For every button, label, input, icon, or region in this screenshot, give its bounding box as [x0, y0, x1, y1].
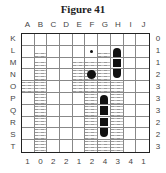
- grid-cell-HT[interactable]: [111, 140, 124, 152]
- grid-cell-CS[interactable]: [47, 128, 60, 140]
- grid-cell-EP[interactable]: [73, 93, 86, 105]
- grid-cell-JT[interactable]: [136, 140, 149, 152]
- grid-cell-EM[interactable]: [73, 58, 86, 70]
- grid-cell-AS[interactable]: [22, 128, 35, 140]
- grid-cell-FT[interactable]: [85, 140, 98, 152]
- grid-cell-JP[interactable]: [136, 93, 149, 105]
- grid-cell-DS[interactable]: [60, 128, 73, 140]
- grid-cell-JL[interactable]: [136, 46, 149, 58]
- grid-cell-HS[interactable]: [111, 128, 124, 140]
- grid-cell-DR[interactable]: [60, 117, 73, 129]
- grid-cell-CR[interactable]: [47, 117, 60, 129]
- grid-cell-DN[interactable]: [60, 69, 73, 81]
- grid-cell-GL[interactable]: [98, 46, 111, 58]
- grid-cell-IQ[interactable]: [124, 105, 137, 117]
- grid-cell-JR[interactable]: [136, 117, 149, 129]
- grid-cell-GM[interactable]: [98, 58, 111, 70]
- grid-cell-DL[interactable]: [60, 46, 73, 58]
- grid-cell-GQ[interactable]: [98, 105, 111, 117]
- grid-cell-EK[interactable]: [73, 34, 86, 46]
- grid-cell-IT[interactable]: [124, 140, 137, 152]
- grid-cell-EQ[interactable]: [73, 105, 86, 117]
- grid-cell-EN[interactable]: [73, 69, 86, 81]
- grid-cell-IK[interactable]: [124, 34, 137, 46]
- grid-cell-HO[interactable]: [111, 81, 124, 93]
- grid-cell-AT[interactable]: [22, 140, 35, 152]
- grid-cell-GK[interactable]: [98, 34, 111, 46]
- grid-cell-HP[interactable]: [111, 93, 124, 105]
- grid-cell-BK[interactable]: [35, 34, 48, 46]
- grid-cell-AP[interactable]: [22, 93, 35, 105]
- grid-cell-BP[interactable]: [35, 93, 48, 105]
- grid-cell-BO[interactable]: [35, 81, 48, 93]
- grid-cell-AO[interactable]: [22, 81, 35, 93]
- grid-cell-FP[interactable]: [85, 93, 98, 105]
- grid-cell-AL[interactable]: [22, 46, 35, 58]
- grid-cell-IM[interactable]: [124, 58, 137, 70]
- grid-cell-CQ[interactable]: [47, 105, 60, 117]
- grid-cell-IS[interactable]: [124, 128, 137, 140]
- grid-cell-BS[interactable]: [35, 128, 48, 140]
- grid-cell-EL[interactable]: [73, 46, 86, 58]
- grid-cell-GS[interactable]: [98, 128, 111, 140]
- grid-cell-CO[interactable]: [47, 81, 60, 93]
- grid-cell-GN[interactable]: [98, 69, 111, 81]
- grid-cell-ET[interactable]: [73, 140, 86, 152]
- grid-cell-CK[interactable]: [47, 34, 60, 46]
- grid-cell-JQ[interactable]: [136, 105, 149, 117]
- grid-cell-HL[interactable]: [111, 46, 124, 58]
- grid-cell-FL[interactable]: [85, 46, 98, 58]
- grid-cell-BR[interactable]: [35, 117, 48, 129]
- grid-cell-FR[interactable]: [85, 117, 98, 129]
- grid-cell-GO[interactable]: [98, 81, 111, 93]
- grid-cell-CT[interactable]: [47, 140, 60, 152]
- grid-cell-CL[interactable]: [47, 46, 60, 58]
- grid-cell-GP[interactable]: [98, 93, 111, 105]
- grid-cell-IP[interactable]: [124, 93, 137, 105]
- grid-cell-HR[interactable]: [111, 117, 124, 129]
- grid-cell-GR[interactable]: [98, 117, 111, 129]
- grid-cell-AR[interactable]: [22, 117, 35, 129]
- grid-cell-IO[interactable]: [124, 81, 137, 93]
- grid-cell-CN[interactable]: [47, 69, 60, 81]
- grid-cell-DQ[interactable]: [60, 105, 73, 117]
- grid-cell-JM[interactable]: [136, 58, 149, 70]
- grid-cell-ER[interactable]: [73, 117, 86, 129]
- grid-cell-DO[interactable]: [60, 81, 73, 93]
- grid-cell-FO[interactable]: [85, 81, 98, 93]
- grid-cell-AM[interactable]: [22, 58, 35, 70]
- grid-cell-DP[interactable]: [60, 93, 73, 105]
- grid-cell-JN[interactable]: [136, 69, 149, 81]
- grid-cell-HK[interactable]: [111, 34, 124, 46]
- grid-cell-CM[interactable]: [47, 58, 60, 70]
- grid-cell-BT[interactable]: [35, 140, 48, 152]
- grid-cell-IN[interactable]: [124, 69, 137, 81]
- grid-cell-DM[interactable]: [60, 58, 73, 70]
- grid-cell-AQ[interactable]: [22, 105, 35, 117]
- grid-cell-EO[interactable]: [73, 81, 86, 93]
- grid-cell-FK[interactable]: [85, 34, 98, 46]
- grid-cell-FN[interactable]: [85, 69, 98, 81]
- grid-cell-ES[interactable]: [73, 128, 86, 140]
- grid-cell-GT[interactable]: [98, 140, 111, 152]
- grid-cell-FM[interactable]: [85, 58, 98, 70]
- grid-cell-DT[interactable]: [60, 140, 73, 152]
- grid-cell-FQ[interactable]: [85, 105, 98, 117]
- grid-cell-DK[interactable]: [60, 34, 73, 46]
- grid-cell-JO[interactable]: [136, 81, 149, 93]
- grid-cell-BM[interactable]: [35, 58, 48, 70]
- grid-cell-JK[interactable]: [136, 34, 149, 46]
- grid-cell-BN[interactable]: [35, 69, 48, 81]
- grid-cell-HQ[interactable]: [111, 105, 124, 117]
- grid-cell-BQ[interactable]: [35, 105, 48, 117]
- grid-cell-AN[interactable]: [22, 69, 35, 81]
- grid-cell-JS[interactable]: [136, 128, 149, 140]
- grid-cell-HN[interactable]: [111, 69, 124, 81]
- grid-cell-CP[interactable]: [47, 93, 60, 105]
- grid-cell-IL[interactable]: [124, 46, 137, 58]
- grid-cell-HM[interactable]: [111, 58, 124, 70]
- grid-cell-FS[interactable]: [85, 128, 98, 140]
- grid-cell-AK[interactable]: [22, 34, 35, 46]
- grid-cell-BL[interactable]: [35, 46, 48, 58]
- grid-cell-IR[interactable]: [124, 117, 137, 129]
